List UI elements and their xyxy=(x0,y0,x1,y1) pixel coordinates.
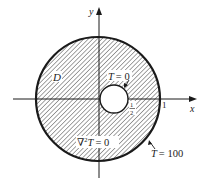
x-axis-arrow-icon xyxy=(189,96,197,102)
x-axis-label: x xyxy=(189,103,195,114)
tick-half-den: 2 xyxy=(130,109,133,116)
region-label: D xyxy=(52,71,61,83)
pde-label: ∇2T= 0 xyxy=(77,136,109,148)
outer-boundary-label: T= 100 xyxy=(151,148,183,159)
annulus-diagram: D T= 0 1 2 1 x y ∇2T= 0 T= 100 xyxy=(0,0,210,186)
inner-boundary-label: T= 0 xyxy=(108,71,130,82)
tick-half-num: 1 xyxy=(130,101,133,108)
y-axis-label: y xyxy=(88,6,94,17)
y-axis-arrow-icon xyxy=(96,7,102,15)
inner-boundary xyxy=(100,85,128,113)
tick-one: 1 xyxy=(162,100,167,110)
